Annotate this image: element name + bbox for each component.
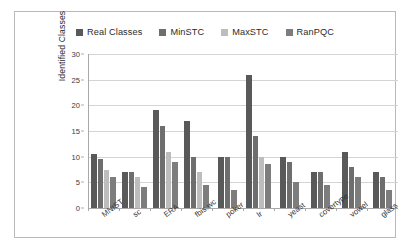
chart-legend: Real ClassesMinSTCMaxSTCRanPQC — [15, 27, 395, 37]
y-tick-label: 30 — [72, 50, 80, 59]
x-tick-mark — [181, 208, 182, 211]
bar-group — [336, 54, 367, 208]
legend-swatch-icon — [76, 29, 83, 36]
y-tick-label: 10 — [72, 152, 80, 161]
bar[interactable] — [318, 172, 324, 208]
bar[interactable] — [98, 159, 104, 208]
y-tick-mark — [81, 79, 84, 80]
bar-group — [88, 54, 119, 208]
y-tick-label: 20 — [72, 101, 80, 110]
legend-item[interactable]: MinSTC — [159, 27, 204, 37]
bar[interactable] — [311, 172, 317, 208]
x-tick-mark — [150, 208, 151, 211]
y-tick-mark — [81, 54, 84, 55]
y-tick-mark — [81, 182, 84, 183]
legend-label: MaxSTC — [232, 27, 268, 37]
bar[interactable] — [225, 157, 231, 208]
bar[interactable] — [184, 121, 190, 208]
bar-group — [305, 54, 336, 208]
bar[interactable] — [166, 152, 172, 208]
bar[interactable] — [246, 75, 252, 208]
bar-group — [150, 54, 181, 208]
bar[interactable] — [129, 172, 135, 208]
bar[interactable] — [104, 170, 110, 209]
bar[interactable] — [91, 154, 97, 208]
bar[interactable] — [349, 167, 355, 208]
legend-swatch-icon — [286, 29, 293, 36]
bar[interactable] — [197, 172, 203, 208]
axes — [88, 54, 398, 209]
y-tick-mark — [81, 105, 84, 106]
bar-group — [243, 54, 274, 208]
y-tick-label: 0 — [76, 204, 80, 213]
bar[interactable] — [160, 126, 166, 208]
bar[interactable] — [280, 157, 286, 208]
plot-area: Identified Classes 051015202530 — [63, 54, 398, 209]
legend-item[interactable]: MaxSTC — [221, 27, 268, 37]
bar[interactable] — [253, 136, 259, 208]
bar[interactable] — [141, 187, 147, 208]
y-tick-label: 25 — [72, 75, 80, 84]
bar[interactable] — [135, 177, 141, 208]
bar[interactable] — [373, 172, 379, 208]
legend-label: MinSTC — [170, 27, 204, 37]
legend-swatch-icon — [159, 29, 166, 36]
bar[interactable] — [380, 177, 386, 208]
bar[interactable] — [218, 157, 224, 208]
x-tick-mark — [88, 208, 89, 211]
y-tick-mark — [81, 131, 84, 132]
y-tick-mark — [81, 156, 84, 157]
bar[interactable] — [287, 162, 293, 208]
bar-group — [367, 54, 398, 208]
y-tick-mark — [81, 208, 84, 209]
y-tick-label: 5 — [76, 178, 80, 187]
bar-group — [119, 54, 150, 208]
legend-item[interactable]: RanPQC — [286, 27, 334, 37]
chart-frame: Real ClassesMinSTCMaxSTCRanPQC Identifie… — [14, 11, 396, 238]
bar-group — [212, 54, 243, 208]
legend-label: RanPQC — [297, 27, 334, 37]
legend-item[interactable]: Real Classes — [76, 27, 142, 37]
x-tick-mark — [274, 208, 275, 211]
bar[interactable] — [265, 164, 271, 208]
bar[interactable] — [153, 110, 159, 208]
chart-screenshot: Real ClassesMinSTCMaxSTCRanPQC Identifie… — [0, 0, 411, 251]
bar[interactable] — [259, 157, 265, 208]
bar[interactable] — [191, 157, 197, 208]
bar-group — [181, 54, 212, 208]
x-axis-labels: MNISTscERAfbis.wcpokerlryeastcovertypevo… — [88, 212, 398, 251]
y-axis-ticks: 051015202530 — [63, 54, 84, 209]
bar-groups — [88, 54, 398, 208]
legend-label: Real Classes — [87, 27, 142, 37]
x-axis-label: lr — [255, 209, 264, 219]
bar-group — [274, 54, 305, 208]
y-tick-label: 15 — [72, 127, 80, 136]
legend-swatch-icon — [221, 29, 228, 36]
